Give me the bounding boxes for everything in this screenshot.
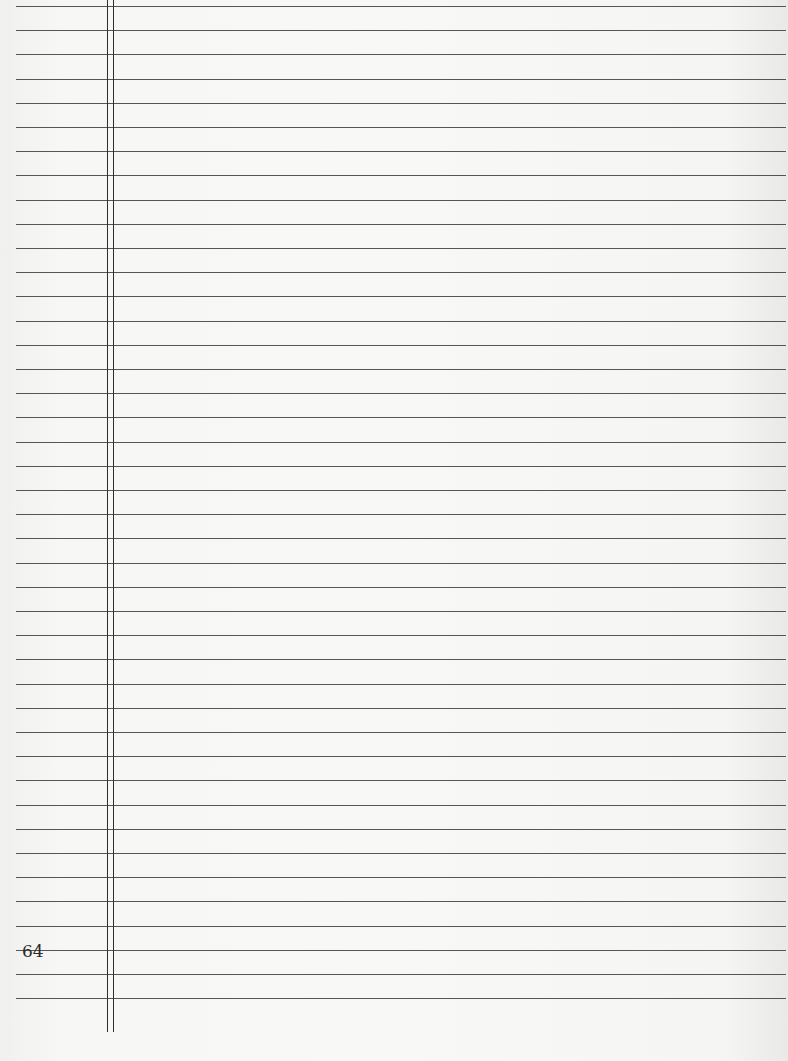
ruled-line [16, 829, 786, 830]
ruled-line [16, 248, 786, 249]
ruled-line [16, 151, 786, 152]
ruled-line [16, 950, 786, 951]
ruled-line [16, 901, 786, 902]
ruled-line [16, 853, 786, 854]
ruled-line [16, 79, 786, 80]
notebook-page: 64 [0, 0, 788, 1061]
ruled-line [16, 466, 786, 467]
ruled-line [16, 732, 786, 733]
ruled-line [16, 272, 786, 273]
ruled-line [16, 490, 786, 491]
ruled-line [16, 175, 786, 176]
ruled-line [16, 103, 786, 104]
ruled-line [16, 200, 786, 201]
ruled-line [16, 538, 786, 539]
ruled-line [16, 611, 786, 612]
margin-line-right [113, 0, 114, 1032]
ruled-line [16, 127, 786, 128]
ruled-line [16, 684, 786, 685]
ruled-line [16, 563, 786, 564]
ruled-line [16, 708, 786, 709]
ruled-line [16, 30, 786, 31]
ruled-line [16, 321, 786, 322]
margin-line-left [107, 0, 108, 1032]
ruled-line [16, 54, 786, 55]
ruled-line [16, 393, 786, 394]
ruled-line [16, 442, 786, 443]
ruled-line [16, 805, 786, 806]
ruled-line [16, 587, 786, 588]
ruled-line [16, 369, 786, 370]
page-number: 64 [22, 941, 44, 961]
ruled-line [16, 877, 786, 878]
ruled-line [16, 756, 786, 757]
ruled-line [16, 417, 786, 418]
ruled-line [16, 6, 786, 7]
ruled-line [16, 780, 786, 781]
ruled-line [16, 659, 786, 660]
ruled-line [16, 998, 786, 999]
ruled-line [16, 926, 786, 927]
ruled-line [16, 514, 786, 515]
ruled-line [16, 635, 786, 636]
ruled-line [16, 345, 786, 346]
ruled-line [16, 974, 786, 975]
ruled-line [16, 224, 786, 225]
ruled-line [16, 296, 786, 297]
